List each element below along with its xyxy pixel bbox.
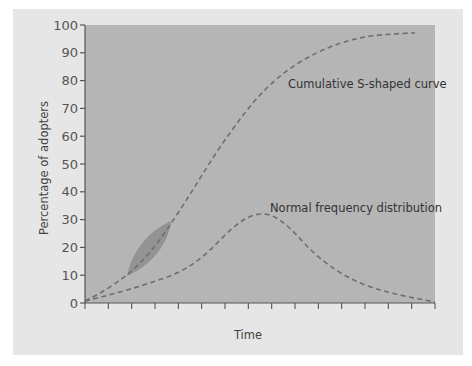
- y-tick-label: 40: [61, 184, 78, 199]
- y-tick-label: 60: [61, 129, 78, 144]
- normal-curve-label: Normal frequency distribution: [270, 201, 442, 215]
- x-axis-ticks: [85, 303, 435, 309]
- y-tick-label: 0: [70, 296, 78, 311]
- y-axis-title: Percentage of adopters: [37, 101, 51, 235]
- y-tick-label: 90: [61, 45, 78, 60]
- y-tick-label: 70: [61, 101, 78, 116]
- s-curve-label: Cumulative S-shaped curve: [288, 77, 447, 91]
- y-tick-label: 20: [61, 240, 78, 255]
- adoption-chart: 0102030405060708090100 Cumulative S-shap…: [0, 0, 472, 366]
- y-tick-label: 50: [61, 157, 78, 172]
- y-tick-label: 80: [61, 73, 78, 88]
- y-tick-label: 100: [53, 18, 78, 33]
- x-axis-title: Time: [233, 328, 262, 342]
- y-axis-ticks: 0102030405060708090100: [53, 18, 85, 311]
- y-tick-label: 10: [61, 268, 78, 283]
- y-tick-label: 30: [61, 212, 78, 227]
